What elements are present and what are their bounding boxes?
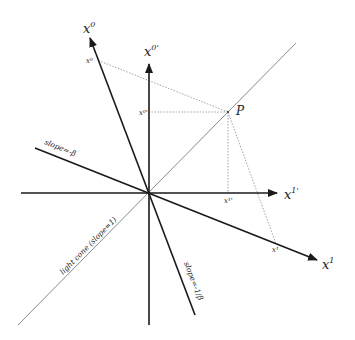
x1prime-axis-label: x1' bbox=[284, 186, 299, 202]
proj-label-x1prime: x¹' bbox=[224, 197, 233, 205]
event-point-p bbox=[227, 111, 229, 113]
spacetime-diagram: x0 x0' x1' x1 P x⁰ x⁰' x¹' x¹ slope=-β s… bbox=[0, 0, 355, 340]
slope-beta-label: slope=-β bbox=[43, 137, 78, 158]
light-cone-line bbox=[18, 43, 296, 325]
proj-line-to-x0 bbox=[97, 60, 228, 112]
slope-inv-beta-label: slope=-1/β bbox=[182, 260, 205, 302]
projection-lines bbox=[97, 60, 276, 244]
event-label-p: P bbox=[235, 104, 245, 118]
proj-line-to-x1 bbox=[228, 112, 276, 244]
x0prime-axis-label: x0' bbox=[144, 43, 159, 59]
proj-label-x0: x⁰ bbox=[86, 57, 93, 65]
x0-axis-label: x0 bbox=[83, 20, 95, 36]
proj-label-x0prime: x⁰' bbox=[139, 109, 148, 117]
proj-label-x1: x¹ bbox=[272, 246, 279, 254]
diagram-canvas: x0 x0' x1' x1 P x⁰ x⁰' x¹' x¹ slope=-β s… bbox=[0, 0, 355, 340]
x1-axis-label: x1 bbox=[322, 256, 334, 272]
light-cone-label: light cone (slope=1) bbox=[58, 215, 119, 276]
